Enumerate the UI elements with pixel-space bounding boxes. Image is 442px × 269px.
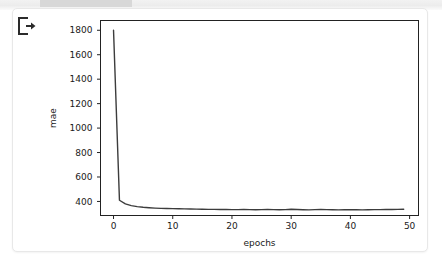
output-export-icon[interactable] [16, 16, 38, 36]
notebook-toolbar-fragment [40, 0, 132, 7]
notebook-output-cell [12, 8, 428, 252]
